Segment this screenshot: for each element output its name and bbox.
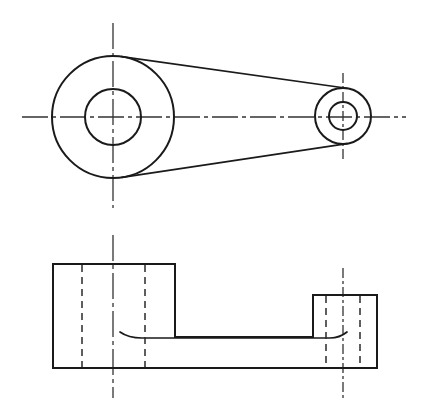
- front-view-outline: [53, 264, 377, 368]
- top-view: [22, 23, 406, 208]
- drawing-sheet: [0, 0, 427, 415]
- technical-drawing-canvas: [0, 0, 427, 415]
- front-view: [53, 235, 377, 398]
